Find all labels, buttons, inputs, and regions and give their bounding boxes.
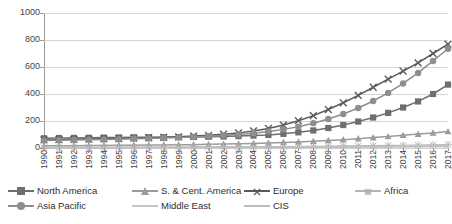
- data-point: [310, 120, 316, 126]
- y-tick-label: 400: [4, 89, 40, 98]
- data-point: [310, 127, 316, 133]
- legend-label: Europe: [273, 185, 304, 196]
- data-point: [400, 68, 407, 75]
- x-tick-label: 1991: [54, 150, 64, 169]
- x-tick-mark: [388, 148, 389, 151]
- data-point: [415, 98, 421, 104]
- y-tick-label: 1000: [4, 8, 40, 17]
- data-point: [175, 134, 181, 140]
- x-tick-label: 1999: [174, 150, 184, 169]
- x-tick-mark: [89, 148, 90, 151]
- x-tick-mark: [298, 148, 299, 151]
- data-point: [265, 128, 271, 134]
- y-tick-mark: [40, 121, 44, 122]
- legend-label: S. & Cent. America: [161, 185, 241, 196]
- data-point: [430, 91, 436, 97]
- data-point: [220, 132, 226, 138]
- data-point: [355, 92, 362, 99]
- x-tick-label: 2016: [428, 150, 438, 169]
- x-tick-mark: [283, 148, 284, 151]
- x-tick-label: 1990: [39, 150, 49, 169]
- series-layer: [44, 13, 448, 148]
- x-tick-mark: [239, 148, 240, 151]
- chart-legend: North AmericaS. & Cent. AmericaEuropeAfr…: [8, 185, 452, 219]
- x-tick-mark: [343, 148, 344, 151]
- data-point: [400, 104, 406, 110]
- x-tick-label: 2003: [234, 150, 244, 169]
- legend-item-s-cent-america[interactable]: S. & Cent. America: [132, 185, 241, 196]
- data-point: [56, 137, 62, 143]
- data-point: [445, 46, 451, 52]
- y-tick-mark: [40, 67, 44, 68]
- legend-label: Middle East: [161, 200, 211, 211]
- data-point: [355, 105, 361, 111]
- legend-label: CIS: [273, 200, 289, 211]
- x-tick-mark: [418, 148, 419, 151]
- legend-item-europe[interactable]: Europe: [244, 185, 304, 196]
- legend-swatch-circle-icon: [8, 200, 34, 211]
- legend-item-north-america[interactable]: North America: [8, 185, 97, 196]
- legend-swatch-star-icon: [355, 185, 381, 196]
- legend-swatch-cross-icon: [244, 185, 270, 196]
- data-point: [146, 135, 152, 141]
- x-tick-mark: [209, 148, 210, 151]
- data-point: [400, 80, 406, 86]
- legend-label: Asia Pacific: [37, 200, 86, 211]
- data-point: [370, 114, 376, 120]
- x-tick-mark: [448, 148, 449, 151]
- x-tick-mark: [403, 148, 404, 151]
- x-tick-label: 2006: [278, 150, 288, 169]
- x-axis-labels: 1990199119921993199419951996199719981999…: [44, 150, 448, 190]
- x-tick-mark: [313, 148, 314, 151]
- data-point: [325, 125, 331, 131]
- x-tick-label: 1994: [99, 150, 109, 169]
- x-tick-label: 2017: [443, 150, 452, 169]
- legend-label: North America: [37, 185, 97, 196]
- y-tick-label: 0: [4, 143, 40, 152]
- legend-item-cis[interactable]: CIS: [244, 200, 289, 211]
- legend-label: Africa: [384, 185, 408, 196]
- x-tick-label: 1992: [69, 150, 79, 169]
- data-point: [101, 136, 107, 142]
- x-tick-mark: [119, 148, 120, 151]
- data-point: [131, 136, 137, 142]
- x-tick-label: 2014: [398, 150, 408, 169]
- x-tick-label: 1997: [144, 150, 154, 169]
- x-tick-mark: [164, 148, 165, 151]
- legend-item-africa[interactable]: Africa: [355, 185, 408, 196]
- x-tick-label: 2005: [263, 150, 273, 169]
- legend-marker-icon: [17, 187, 25, 195]
- data-point: [190, 134, 196, 140]
- x-tick-mark: [149, 148, 150, 151]
- x-tick-label: 2008: [308, 150, 318, 169]
- data-point: [385, 110, 391, 116]
- x-tick-label: 1996: [129, 150, 139, 169]
- y-tick-label: 600: [4, 62, 40, 71]
- legend-marker-icon: [253, 187, 261, 195]
- x-tick-label: 2001: [204, 150, 214, 169]
- data-point: [430, 50, 437, 57]
- legend-marker-icon: [17, 202, 25, 210]
- x-tick-label: 2010: [338, 150, 348, 169]
- legend-item-asia-pacific[interactable]: Asia Pacific: [8, 200, 86, 211]
- data-point: [355, 118, 361, 124]
- data-point: [205, 133, 211, 139]
- data-point: [325, 116, 331, 122]
- data-point: [295, 123, 301, 129]
- data-point: [310, 112, 317, 119]
- data-point: [161, 135, 167, 141]
- y-tick-label: 200: [4, 116, 40, 125]
- x-tick-mark: [104, 148, 105, 151]
- data-point: [280, 126, 286, 132]
- data-point: [415, 70, 421, 76]
- x-tick-mark: [224, 148, 225, 151]
- data-point: [340, 122, 346, 128]
- legend-item-middle-east[interactable]: Middle East: [132, 200, 211, 211]
- x-tick-label: 2007: [293, 150, 303, 169]
- x-tick-mark: [134, 148, 135, 151]
- data-point: [235, 131, 241, 137]
- data-point: [340, 111, 346, 117]
- x-tick-mark: [268, 148, 269, 151]
- legend-marker-icon: [141, 187, 149, 195]
- data-point: [41, 137, 47, 143]
